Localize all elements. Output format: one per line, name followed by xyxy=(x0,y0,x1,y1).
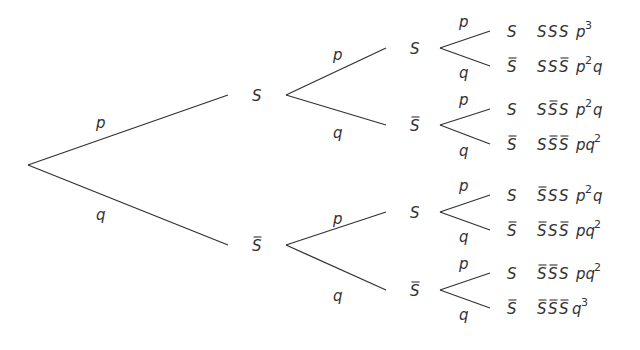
sequence-7-2: S xyxy=(559,300,569,318)
branch-label-leaf-6: p xyxy=(458,255,469,273)
sequence-5-0: S xyxy=(537,222,547,240)
sequence-6-2: S xyxy=(559,265,569,283)
sequence-6-0: S xyxy=(537,265,547,283)
branch-label-l1-0: p xyxy=(95,114,106,132)
sequence-5-2: S xyxy=(559,222,569,240)
probability-4: p xyxy=(575,187,586,205)
branch-leaf-4 xyxy=(440,195,490,212)
sequence-0-1: S xyxy=(548,23,558,41)
node-leaf-1: S xyxy=(507,58,517,76)
branch-label-leaf-5: q xyxy=(459,228,469,246)
branch-label-l2-3: q xyxy=(333,287,343,305)
probability-6: pq xyxy=(575,265,595,283)
branch-label-l1-1: q xyxy=(96,206,106,224)
branch-label-leaf-0: p xyxy=(458,13,469,31)
sequence-6-1: S xyxy=(548,265,558,283)
branch-leaf-2 xyxy=(440,109,490,125)
branch-leaf-0 xyxy=(440,31,490,48)
node-l2-3: S xyxy=(410,282,420,300)
probability-exp-0: 3 xyxy=(585,19,592,32)
node-l2-2: S xyxy=(410,204,420,222)
branch-label-leaf-2: p xyxy=(458,91,469,109)
sequence-5-1: S xyxy=(548,222,558,240)
sequence-2-2: S xyxy=(559,101,569,119)
sequence-1-1: S xyxy=(548,58,558,76)
sequence-4-2: S xyxy=(559,187,569,205)
probability-exp-4: 2 xyxy=(585,183,592,196)
branch-label-l2-1: q xyxy=(333,124,343,142)
node-leaf-2: S xyxy=(507,101,517,119)
sequence-0-2: S xyxy=(559,23,569,41)
probability-3: pq xyxy=(575,136,595,154)
probability-1: p xyxy=(575,58,586,76)
node-leaf-3: S xyxy=(507,136,517,154)
node-leaf-7: S xyxy=(507,300,517,318)
probability-exp-6: 2 xyxy=(594,261,601,274)
branch-label-l2-2: p xyxy=(332,210,343,228)
node-leaf-5: S xyxy=(507,222,517,240)
sequence-0-0: S xyxy=(537,23,547,41)
node-leaf-4: S xyxy=(507,187,517,205)
sequence-2-0: S xyxy=(537,101,547,119)
probability-2: p xyxy=(575,101,586,119)
node-l1-0: S xyxy=(252,87,262,105)
probability-tree: pSqSpSqSpSqSpSSSSp3qSSSSp2qpSSSSp2qqSSSS… xyxy=(0,0,640,350)
probability-5: pq xyxy=(575,222,595,240)
branch-label-leaf-1: q xyxy=(459,64,469,82)
probability-tail-4: q xyxy=(593,187,603,205)
branch-label-leaf-4: p xyxy=(458,177,469,195)
probability-exp-7: 3 xyxy=(581,296,588,309)
sequence-7-1: S xyxy=(548,300,558,318)
branch-l2-3 xyxy=(286,245,386,290)
branch-label-l2-0: p xyxy=(332,46,343,64)
probability-0: p xyxy=(575,23,586,41)
sequence-4-0: S xyxy=(537,187,547,205)
node-l2-0: S xyxy=(410,40,420,58)
sequence-2-1: S xyxy=(548,101,558,119)
branch-leaf-6 xyxy=(440,273,490,290)
branch-label-leaf-3: q xyxy=(459,142,469,160)
node-l1-1: S xyxy=(252,237,262,255)
node-leaf-6: S xyxy=(507,265,517,283)
sequence-4-1: S xyxy=(548,187,558,205)
branch-label-leaf-7: q xyxy=(459,306,469,324)
probability-exp-3: 2 xyxy=(594,132,601,145)
probability-exp-2: 2 xyxy=(585,97,592,110)
probability-exp-1: 2 xyxy=(585,54,592,67)
node-leaf-0: S xyxy=(507,23,517,41)
sequence-3-1: S xyxy=(548,136,558,154)
sequence-1-0: S xyxy=(537,58,547,76)
sequence-7-0: S xyxy=(537,300,547,318)
probability-tail-2: q xyxy=(593,101,603,119)
probability-exp-5: 2 xyxy=(594,218,601,231)
branch-l2-1 xyxy=(286,95,386,125)
probability-tail-1: q xyxy=(593,58,603,76)
branch-l1-0 xyxy=(28,95,228,165)
branch-l1-1 xyxy=(28,165,228,245)
sequence-3-2: S xyxy=(559,136,569,154)
sequence-1-2: S xyxy=(559,58,569,76)
node-l2-1: S xyxy=(410,117,420,135)
sequence-3-0: S xyxy=(537,136,547,154)
